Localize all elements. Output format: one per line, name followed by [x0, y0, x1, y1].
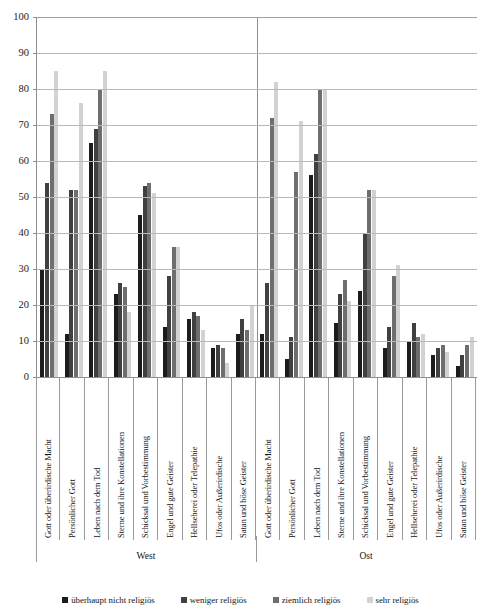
- category-label-cell: Leben nach dem Tod: [85, 378, 109, 540]
- category-label: Ufos oder Außerirdische: [214, 456, 223, 538]
- bar: [172, 247, 176, 377]
- bar: [367, 190, 371, 377]
- y-tick-mark: [33, 269, 37, 270]
- bar: [392, 276, 396, 377]
- bar: [347, 301, 351, 377]
- bar: [343, 280, 347, 377]
- gridline: [37, 53, 477, 54]
- bar: [407, 341, 411, 377]
- bar: [192, 312, 196, 377]
- gridline: [37, 341, 477, 342]
- grouped-bar-chart: 0102030405060708090100 Gott oder überird…: [0, 0, 481, 616]
- y-tick-mark: [33, 89, 37, 90]
- category-label: Schicksal und Vorbestimmung: [361, 436, 370, 538]
- category-label-cell: Leben nach dem Tod: [305, 378, 329, 540]
- y-tick-label: 0: [24, 372, 29, 382]
- category-label: Gott oder überirdische Macht: [44, 439, 53, 538]
- bar: [118, 283, 122, 377]
- bar: [412, 323, 416, 377]
- bar: [138, 215, 142, 377]
- region-separator: [36, 536, 37, 562]
- y-tick-mark: [33, 341, 37, 342]
- category-label-cell: Schicksal und Vorbestimmung: [354, 378, 378, 540]
- category-label-cell: Hellseherei oder Telepathie: [183, 378, 207, 540]
- category-label: Sterne und ihre Konstellationen: [337, 432, 346, 538]
- bar: [50, 114, 54, 377]
- legend-swatch-icon: [181, 597, 187, 603]
- bar: [372, 190, 376, 377]
- bar: [270, 118, 274, 377]
- bar: [123, 287, 127, 377]
- legend-swatch-icon: [273, 597, 279, 603]
- category-label-cell: Gott oder überirdische Macht: [36, 378, 60, 540]
- bar: [176, 247, 180, 377]
- legend-swatch-icon: [367, 597, 373, 603]
- category-label: Sterne und ihre Konstellationen: [117, 432, 126, 538]
- category-label: Hellseherei oder Telepathie: [410, 446, 419, 538]
- y-tick-label: 100: [13, 12, 29, 22]
- legend-label: ziemlich religiös: [282, 595, 341, 605]
- category-label-cell: Satan und böse Geister: [232, 378, 256, 540]
- bar: [285, 359, 289, 377]
- category-label-cell: Schicksal und Vorbestimmung: [134, 378, 158, 540]
- y-tick-mark: [33, 233, 37, 234]
- legend-item-1: weniger religiös: [181, 595, 247, 605]
- bar: [211, 348, 215, 377]
- bar: [45, 183, 49, 377]
- category-label: Hellseherei oder Telepathie: [190, 446, 199, 538]
- category-label: Engel und gute Geister: [385, 461, 394, 538]
- bar: [334, 323, 338, 377]
- y-tick-label: 30: [19, 264, 30, 274]
- gridline: [37, 17, 477, 18]
- y-tick-label: 40: [19, 228, 30, 238]
- plot-area: [36, 17, 477, 378]
- bar: [216, 345, 220, 377]
- bar: [294, 172, 298, 377]
- category-label: Satan und böse Geister: [459, 461, 468, 538]
- bar: [69, 190, 73, 377]
- bar: [40, 269, 44, 377]
- gridline: [37, 125, 477, 126]
- bar: [201, 330, 205, 377]
- bar: [456, 366, 460, 377]
- gridline: [37, 197, 477, 198]
- category-label: Persönlicher Gott: [288, 479, 297, 538]
- bar: [436, 348, 440, 377]
- category-label-cell: Sterne und ihre Konstellationen: [329, 378, 353, 540]
- bar: [245, 330, 249, 377]
- bar: [103, 71, 107, 377]
- bar: [225, 363, 229, 377]
- category-label: Ufos oder Außerirdische: [434, 456, 443, 538]
- y-tick-mark: [33, 161, 37, 162]
- category-label: Leben nach dem Tod: [92, 468, 101, 538]
- category-label-cell: Ufos oder Außerirdische: [207, 378, 231, 540]
- bar: [274, 82, 278, 377]
- category-label-cell: Ufos oder Außerirdische: [427, 378, 451, 540]
- y-tick-mark: [33, 305, 37, 306]
- y-tick-mark: [33, 197, 37, 198]
- bar: [163, 327, 167, 377]
- y-tick-label: 90: [19, 48, 30, 58]
- bar: [54, 71, 58, 377]
- bar: [465, 345, 469, 377]
- bar: [143, 186, 147, 377]
- bar: [114, 294, 118, 377]
- bar: [152, 193, 156, 377]
- bar: [416, 337, 420, 377]
- bar: [470, 337, 474, 377]
- bar: [240, 319, 244, 377]
- legend-label: sehr religiös: [376, 595, 419, 605]
- chart-legend: überhaupt nicht religiösweniger religiös…: [0, 588, 481, 612]
- legend-swatch-icon: [62, 597, 68, 603]
- bar: [167, 276, 171, 377]
- category-label-cell: Persönlicher Gott: [280, 378, 304, 540]
- y-tick-label: 60: [19, 156, 30, 166]
- category-label: Persönlicher Gott: [68, 479, 77, 538]
- bar: [94, 129, 98, 377]
- category-label: Schicksal und Vorbestimmung: [141, 436, 150, 538]
- y-axis: 0102030405060708090100: [0, 0, 33, 395]
- bar: [74, 190, 78, 377]
- gridline: [37, 233, 477, 234]
- bar: [147, 183, 151, 377]
- bar: [314, 154, 318, 377]
